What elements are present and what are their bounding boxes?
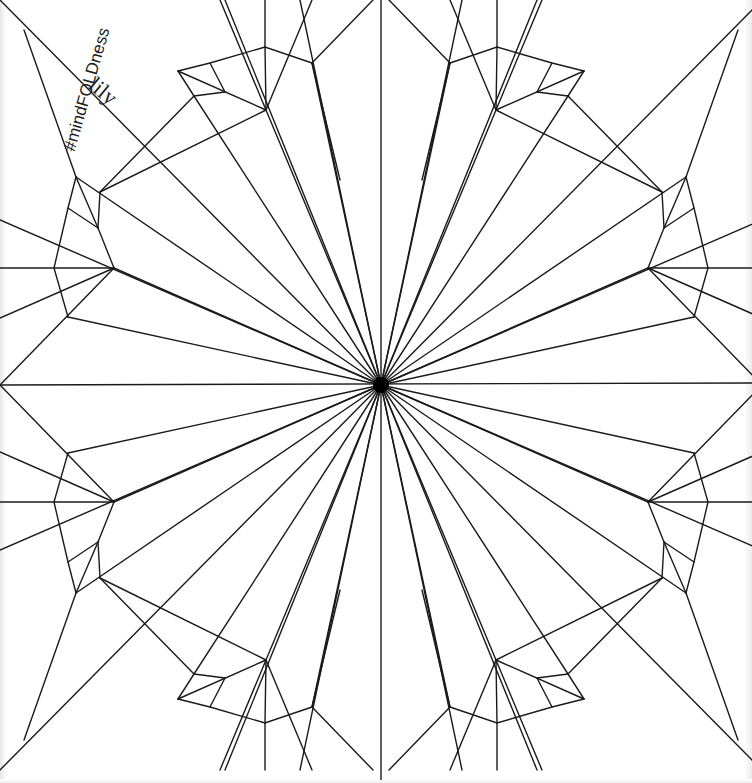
crease-pattern xyxy=(0,0,752,783)
